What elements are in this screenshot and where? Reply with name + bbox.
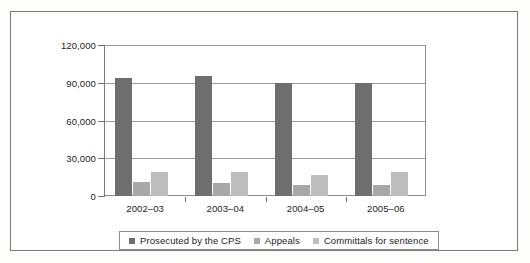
y-axis-labels: 030,00060,00090,000120,000 xyxy=(41,45,96,196)
x-tick-mark xyxy=(266,197,267,202)
figure-border: 030,00060,00090,000120,000 2002–032003–0… xyxy=(10,11,518,251)
legend-label: Committals for sentence xyxy=(324,235,429,246)
y-tick-label: 120,000 xyxy=(61,40,96,51)
legend-swatch-icon xyxy=(313,238,319,244)
y-tick-mark xyxy=(98,83,104,84)
bar-group xyxy=(115,45,168,196)
legend-label: Appeals xyxy=(265,235,300,246)
bar xyxy=(311,175,328,196)
bar xyxy=(195,76,212,196)
bars-layer xyxy=(105,45,426,196)
bar-group xyxy=(195,45,248,196)
x-axis-labels: 2002–032003–042004–052005–06 xyxy=(105,197,426,219)
legend-swatch-icon xyxy=(129,238,135,244)
y-tick-mark xyxy=(98,121,104,122)
y-tick-label: 90,000 xyxy=(66,77,96,88)
y-tick-label: 0 xyxy=(91,191,96,202)
figure-container: 030,00060,00090,000120,000 2002–032003–0… xyxy=(0,0,530,263)
y-tick-mark xyxy=(98,158,104,159)
bar xyxy=(115,78,132,196)
x-tick-label: 2002–03 xyxy=(126,203,164,214)
x-tick-label: 2003–04 xyxy=(207,203,245,214)
bar xyxy=(373,185,390,196)
legend-item: Appeals xyxy=(254,235,300,246)
chart-legend: Prosecuted by the CPSAppealsCommittals f… xyxy=(119,231,439,250)
x-tick-mark xyxy=(185,197,186,202)
bar xyxy=(133,182,150,196)
y-tick-mark xyxy=(98,45,104,46)
x-tick-label: 2004–05 xyxy=(287,203,325,214)
bar xyxy=(355,83,372,196)
legend-item: Prosecuted by the CPS xyxy=(129,235,241,246)
bar xyxy=(391,172,408,196)
bar-group xyxy=(355,45,408,196)
y-tick-mark xyxy=(98,196,104,197)
legend-swatch-icon xyxy=(254,238,260,244)
legend-item: Committals for sentence xyxy=(313,235,429,246)
bar xyxy=(275,83,292,196)
legend-label: Prosecuted by the CPS xyxy=(140,235,241,246)
y-tick-label: 60,000 xyxy=(66,115,96,126)
bar xyxy=(231,172,248,196)
bar xyxy=(293,185,310,196)
bar xyxy=(213,183,230,196)
x-tick-label: 2005–06 xyxy=(367,203,405,214)
y-tick-label: 30,000 xyxy=(66,153,96,164)
bar-group xyxy=(275,45,328,196)
bar xyxy=(151,172,168,196)
x-tick-mark xyxy=(346,197,347,202)
